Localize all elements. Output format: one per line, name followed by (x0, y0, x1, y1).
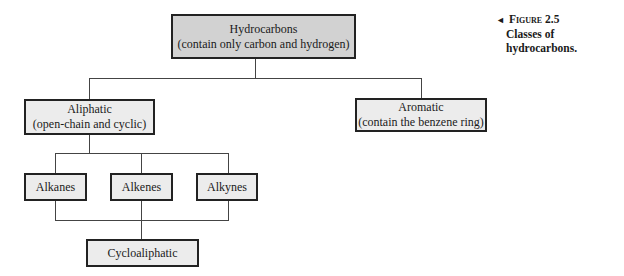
node-title: Hydrocarbons (230, 22, 298, 37)
node-aliphatic: Aliphatic (open-chain and cyclic) (24, 99, 155, 135)
node-aromatic: Aromatic (contain the benzene ring) (355, 98, 487, 132)
figure-label: Figure 2.5 (509, 13, 560, 25)
arrow-left-icon: ◄ (496, 15, 505, 25)
connector-to-aliphatic (89, 78, 90, 99)
node-alkynes: Alkynes (196, 173, 258, 201)
node-subtitle: (contain only carbon and hydrogen) (178, 37, 350, 52)
node-title: Alkynes (207, 180, 247, 195)
node-subtitle: (open-chain and cyclic) (33, 117, 146, 132)
node-alkenes: Alkenes (110, 173, 173, 201)
connector-to-alkenes (141, 153, 142, 173)
connector-level1-horizontal (89, 78, 422, 79)
connector-level3-horizontal (55, 220, 229, 221)
connector-to-aromatic (421, 78, 422, 98)
figure-caption-text: Classes of hydrocarbons. (496, 27, 624, 55)
node-cycloaliphatic: Cycloaliphatic (86, 239, 199, 267)
node-title: Aromatic (398, 100, 443, 115)
figure-caption: ◄Figure 2.5 Classes of hydrocarbons. (496, 12, 624, 55)
node-title: Alkanes (36, 180, 75, 195)
connector-to-alkanes (55, 153, 56, 173)
connector-alkynes-down (228, 200, 229, 220)
connector-to-alkynes (228, 153, 229, 173)
node-hydrocarbons: Hydrocarbons (contain only carbon and hy… (171, 14, 356, 59)
connector-alkanes-down (55, 200, 56, 220)
connector-root-down (255, 58, 256, 78)
node-subtitle: (contain the benzene ring) (358, 115, 484, 130)
node-title: Aliphatic (67, 102, 112, 117)
node-alkanes: Alkanes (24, 173, 87, 201)
node-title: Alkenes (122, 180, 161, 195)
node-title: Cycloaliphatic (108, 246, 178, 261)
connector-aliphatic-down (89, 134, 90, 153)
